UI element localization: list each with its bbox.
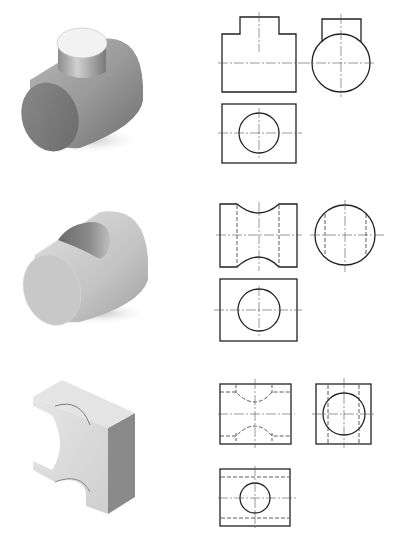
row-3-isometric-block — [33, 380, 135, 514]
row-2-side-view — [310, 200, 384, 272]
drawing-canvas — [0, 0, 398, 547]
row-1-side-view — [300, 14, 374, 97]
row-2-top-view — [214, 279, 302, 341]
row-3-top-view — [218, 466, 298, 530]
row-3-side-view — [312, 378, 376, 448]
row-2-front-view — [216, 202, 302, 271]
row-2-isometric-cylinder-with-hole — [14, 211, 150, 333]
row-1-top-view — [218, 104, 302, 163]
row-3-front-view — [218, 379, 295, 448]
row-1-isometric-tee — [13, 28, 143, 159]
row-1-front-view — [218, 12, 300, 92]
